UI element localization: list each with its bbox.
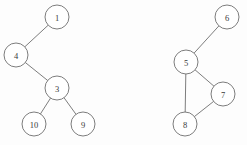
node-label-9: 9 — [81, 120, 85, 130]
graph-edge-5-8 — [185, 74, 186, 112]
node-label-10: 10 — [30, 120, 39, 130]
right-graph-nodes: 6578 — [173, 5, 239, 136]
node-label-8: 8 — [183, 120, 187, 130]
graph-edge-6-5 — [194, 26, 219, 53]
left-graph-nodes: 143109 — [4, 5, 95, 136]
nodes-layer: 1431096578 — [4, 5, 239, 136]
graph-node-7[interactable]: 7 — [211, 82, 235, 106]
node-label-6: 6 — [225, 13, 229, 23]
graph-edge-4-3 — [25, 63, 47, 81]
graph-node-3[interactable]: 3 — [45, 76, 69, 100]
graph-node-8[interactable]: 8 — [173, 112, 197, 136]
node-label-1: 1 — [55, 13, 59, 23]
node-label-5: 5 — [184, 58, 188, 68]
node-label-3: 3 — [55, 84, 59, 94]
node-label-7: 7 — [221, 90, 225, 100]
graph-node-1[interactable]: 1 — [45, 5, 69, 29]
graph-edge-5-7 — [195, 70, 214, 86]
graph-edge-3-9 — [64, 98, 76, 115]
graph-figure: 1431096578 — [0, 0, 247, 145]
graph-node-5[interactable]: 5 — [174, 50, 198, 74]
graph-node-4[interactable]: 4 — [4, 43, 28, 67]
graph-node-6[interactable]: 6 — [215, 5, 239, 29]
graph-node-9[interactable]: 9 — [71, 112, 95, 136]
graph-node-10[interactable]: 10 — [22, 112, 46, 136]
graph-canvas: 1431096578 — [0, 0, 247, 145]
graph-edge-1-4 — [25, 25, 48, 47]
left-graph-edges — [25, 25, 76, 114]
graph-edge-7-8 — [194, 101, 213, 116]
graph-edge-3-10 — [40, 98, 50, 114]
